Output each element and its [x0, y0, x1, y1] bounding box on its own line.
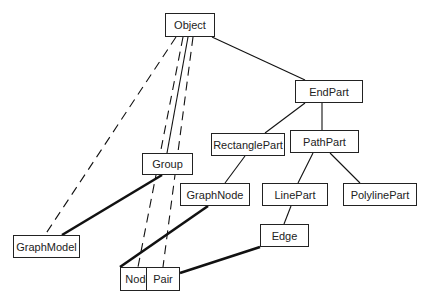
node-label: Pair [153, 273, 173, 285]
node-pair[interactable]: Pair [146, 267, 180, 291]
edge-pathpart-linepart [298, 153, 313, 183]
node-linepart[interactable]: LinePart [262, 183, 328, 206]
node-label: RectanglePart [213, 139, 283, 151]
class-hierarchy-diagram: Object EndPart RectanglePart PathPart Gr… [0, 0, 423, 306]
node-graphmodel[interactable]: GraphModel [13, 235, 80, 258]
edge-object-group [167, 37, 188, 153]
edge-pathpart-polylinepart [330, 153, 360, 183]
node-label: Object [174, 19, 206, 31]
edge-edge-pair [180, 247, 260, 273]
node-graphnode[interactable]: GraphNode [180, 183, 250, 206]
node-label: EndPart [309, 86, 349, 98]
node-edge[interactable]: Edge [260, 224, 309, 247]
node-label: LinePart [275, 189, 316, 201]
edge-rectanglepart-graphnode [225, 156, 245, 183]
node-endpart[interactable]: EndPart [295, 80, 363, 103]
edge-linepart-edge [284, 206, 291, 224]
node-label: GraphNode [187, 189, 244, 201]
edge-object-node [138, 37, 183, 267]
node-pathpart[interactable]: PathPart [290, 130, 359, 153]
edge-group-graphmodel [62, 175, 162, 235]
node-label: Edge [272, 230, 298, 242]
node-object[interactable]: Object [165, 13, 215, 37]
node-label: GraphModel [16, 241, 77, 253]
edge-graphnode-node [120, 206, 208, 267]
node-polylinepart[interactable]: PolylinePart [343, 183, 417, 206]
node-group[interactable]: Group [142, 153, 193, 175]
edge-object-endpart [212, 37, 305, 80]
node-label: PolylinePart [351, 189, 410, 201]
node-label: Group [152, 158, 183, 170]
node-label: PathPart [303, 136, 346, 148]
node-rectanglepart[interactable]: RectanglePart [211, 133, 285, 156]
edge-endpart-rectanglepart [265, 103, 305, 133]
